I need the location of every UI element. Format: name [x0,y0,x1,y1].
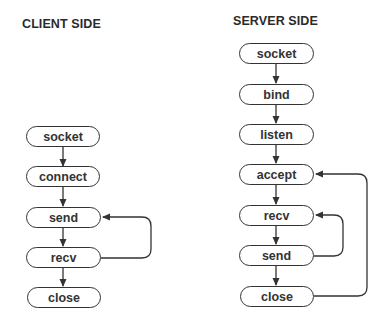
client-node-socket-label: socket [43,130,83,144]
server-loop-close-accept [314,174,367,296]
client-node-close-label: close [48,291,80,305]
server-node-socket: socket [239,43,314,64]
client-loop-recv-send [101,217,151,258]
server-node-listen-label: listen [260,128,293,142]
server-node-accept: accept [239,164,314,185]
client-node-send: send [26,207,101,228]
server-node-send-label: send [262,249,291,263]
server-node-recv: recv [239,205,314,226]
server-node-bind: bind [239,84,314,105]
server-node-listen: listen [239,124,314,145]
server-node-close: close [240,286,314,307]
client-node-recv: recv [26,247,101,268]
client-node-connect: connect [26,166,100,187]
server-node-accept-label: accept [257,168,297,182]
client-node-connect-label: connect [39,170,87,184]
client-node-socket: socket [26,126,100,147]
client-node-send-label: send [49,211,78,225]
server-node-bind-label: bind [263,88,289,102]
server-node-close-label: close [261,290,293,304]
server-node-socket-label: socket [257,47,297,61]
server-node-send: send [239,245,314,266]
client-node-recv-label: recv [51,251,77,265]
client-node-close: close [27,287,101,308]
server-loop-send-recv [314,215,343,256]
flow-edges [0,0,390,324]
server-node-recv-label: recv [264,209,290,223]
